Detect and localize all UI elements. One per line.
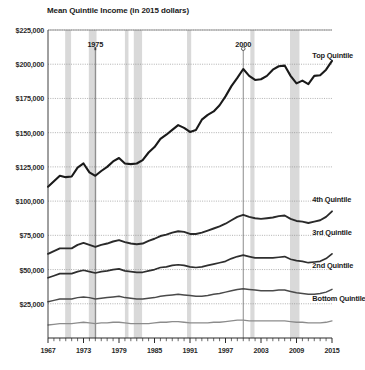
x-axis-tick-label: 2015	[324, 346, 339, 355]
chart-title: Mean Quintile Income (in 2015 dollars)	[47, 6, 189, 15]
chart-container: Mean Quintile Income (in 2015 dollars) $…	[0, 0, 365, 370]
y-axis-tick-label: $225,000	[0, 26, 44, 35]
y-axis-tick-label: $100,000	[0, 197, 44, 206]
recession-band	[125, 30, 129, 338]
y-axis-tick-label: $50,000	[0, 265, 44, 274]
x-axis-tick-label: 1979	[111, 346, 126, 355]
x-axis-tick-label: 1973	[76, 346, 91, 355]
x-axis-tick-label: 2009	[289, 346, 304, 355]
y-axis-tick-label: $75,000	[0, 231, 44, 240]
x-axis-tick-label: 1997	[218, 346, 233, 355]
recession-band	[134, 30, 142, 338]
annotation-label: 2000	[235, 39, 251, 48]
series-label: Bottom Quintile	[312, 293, 365, 302]
series-label: 4th Quintile	[312, 195, 351, 204]
y-axis-tick-label: $25,000	[0, 299, 44, 308]
x-axis-tick-label: 1967	[40, 346, 55, 355]
annotation-label: 1975	[87, 39, 103, 48]
recession-band	[65, 30, 71, 338]
series-label: 3rd Quintile	[312, 227, 351, 236]
y-axis-tick-label: $150,000	[0, 128, 44, 137]
series-label: Top Quintile	[312, 50, 353, 59]
y-axis-tick-label: $200,000	[0, 60, 44, 69]
x-axis-tick-label: 1991	[182, 346, 197, 355]
y-axis-tick-label: $175,000	[0, 94, 44, 103]
chart-plot-area	[0, 0, 365, 370]
x-axis-tick-label: 1985	[147, 346, 162, 355]
y-axis-tick-label: $125,000	[0, 162, 44, 171]
recession-band	[187, 30, 191, 338]
series-label: 2nd Quintile	[312, 260, 353, 269]
x-axis-tick-label: 2003	[253, 346, 268, 355]
